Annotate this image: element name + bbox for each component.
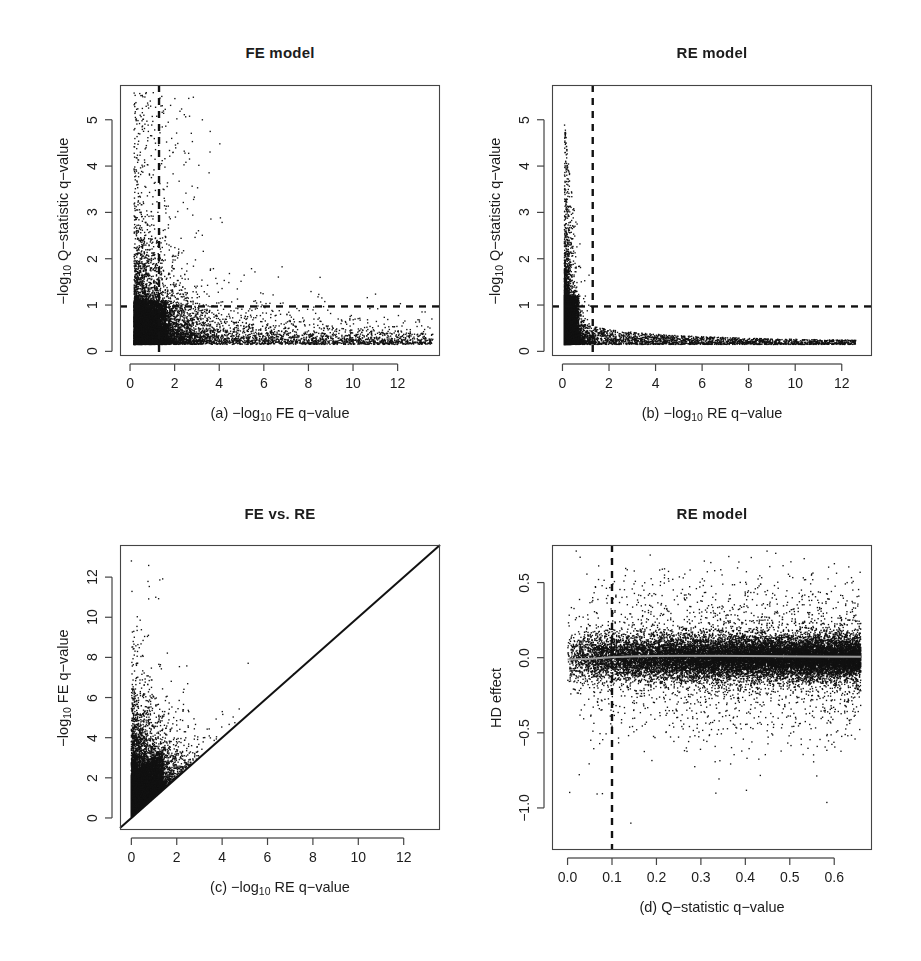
panel-d-yaxis-label: HD effect bbox=[488, 667, 504, 727]
panel-d: RE model0.00.10.20.30.40.50.6−1.0−0.50.0… bbox=[0, 0, 921, 961]
panel-d-ytick-0: −1.0 bbox=[516, 794, 532, 822]
panel-d-plot-area bbox=[490, 531, 886, 910]
panel-d-xtick-0: 0.0 bbox=[558, 869, 577, 885]
panel-d-xaxis-label: (d) Q−statistic q−value bbox=[552, 899, 872, 915]
panel-d-xtick-6: 0.6 bbox=[824, 869, 843, 885]
panel-d-ytick-1: −0.5 bbox=[516, 719, 532, 747]
panel-d-title: RE model bbox=[552, 505, 872, 522]
panel-d-xaxis-label-text: (d) Q−statistic q−value bbox=[639, 899, 784, 915]
panel-d-ytick-3: 0.5 bbox=[516, 573, 532, 592]
panel-d-xtick-3: 0.3 bbox=[691, 869, 710, 885]
panel-d-xtick-2: 0.2 bbox=[647, 869, 666, 885]
panel-d-xtick-1: 0.1 bbox=[602, 869, 621, 885]
panel-d-xtick-5: 0.5 bbox=[780, 869, 799, 885]
panel-d-ytick-2: 0.0 bbox=[516, 648, 532, 667]
panel-d-xtick-4: 0.4 bbox=[736, 869, 755, 885]
figure-panel-grid: FE model024681012012345(a) −log10 FE q−v… bbox=[0, 0, 921, 961]
panel-d-yaxis-label-text: HD effect bbox=[488, 667, 504, 727]
